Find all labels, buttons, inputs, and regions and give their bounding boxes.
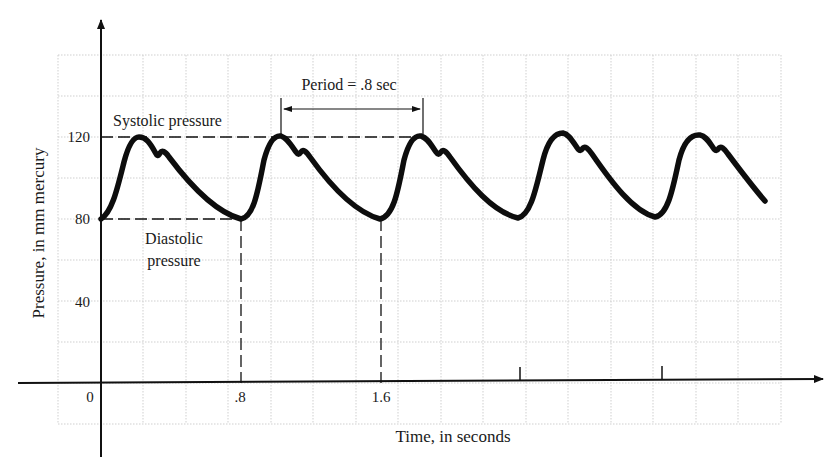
pressure-curve	[101, 133, 765, 219]
x-tick-labels: 0 .8 1.6	[86, 389, 391, 405]
x-tick-0: 0	[86, 389, 94, 405]
x-tick-1-6: 1.6	[372, 389, 391, 405]
diastolic-label-line1: Diastolic	[145, 230, 203, 247]
period-bracket	[281, 98, 423, 134]
y-tick-40: 40	[75, 294, 90, 310]
blood-pressure-chart: 120 80 40 0 .8 1.6 Systolic pressure Dia…	[0, 0, 840, 475]
axes	[18, 20, 823, 457]
y-axis-title: Pressure, in mm mercury	[29, 147, 48, 318]
diastolic-label-line2: pressure	[147, 252, 200, 270]
y-tick-80: 80	[75, 211, 90, 227]
systolic-label: Systolic pressure	[113, 112, 222, 130]
y-tick-120: 120	[68, 129, 91, 145]
x-tick-0-8: .8	[234, 389, 245, 405]
x-axis	[18, 379, 823, 383]
x-axis-title: Time, in seconds	[395, 427, 510, 446]
period-label: Period = .8 sec	[301, 76, 396, 93]
